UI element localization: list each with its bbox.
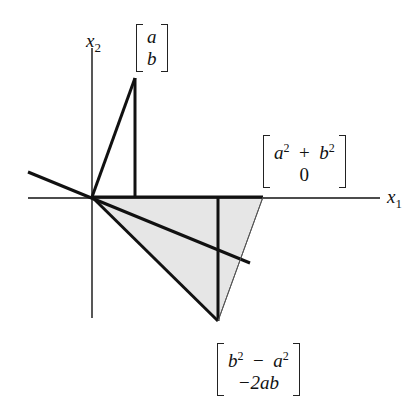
vector-ab-label: a b	[136, 24, 168, 72]
vector-reflect-label: b2 − a2 −2ab	[217, 343, 300, 396]
diagram-canvas	[0, 0, 419, 411]
vector-ab	[92, 78, 135, 197]
vector-sum-label: a2 + b2 0	[263, 135, 346, 188]
x1-axis-label: x1	[387, 187, 402, 210]
x2-axis-label: x2	[86, 31, 101, 54]
